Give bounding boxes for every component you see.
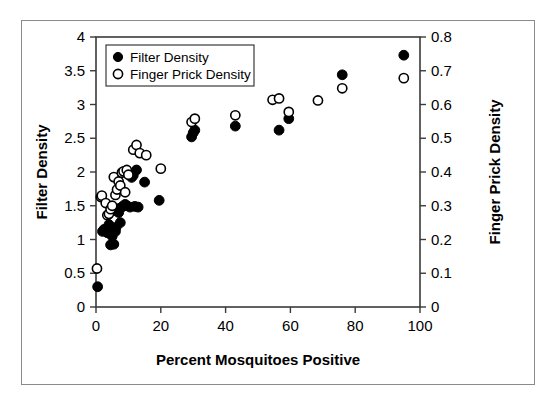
y2-axis-title: Finger Prick Density	[486, 99, 503, 245]
y-tick-label: 3	[77, 96, 85, 113]
x-tick-label: 0	[92, 317, 100, 334]
x-axis-title: Percent Mosquitoes Positive	[156, 351, 360, 368]
y2-tick-label: 0	[431, 298, 439, 315]
figure-container: 00.511.522.533.54 00.10.20.30.40.50.60.7…	[0, 0, 555, 404]
y-tick-label: 0	[77, 298, 85, 315]
x-tick-label: 80	[347, 317, 364, 334]
y2-axis-ticks	[420, 37, 426, 307]
data-point	[274, 94, 283, 103]
y2-tick-label: 0.1	[431, 264, 452, 281]
x-tick-label: 40	[217, 317, 234, 334]
data-point	[190, 114, 199, 123]
legend-marker-finger-prick-density	[113, 69, 122, 78]
y2-tick-label: 0.4	[431, 163, 452, 180]
data-point	[124, 170, 133, 179]
legend: Filter Density Finger Prick Density	[106, 45, 254, 86]
x-tick-label: 20	[152, 317, 169, 334]
data-point	[93, 282, 103, 292]
y2-tick-label: 0.5	[431, 129, 452, 146]
x-tick-label: 100	[407, 317, 432, 334]
data-point	[399, 50, 409, 60]
y-axis-title: Filter Density	[33, 124, 50, 220]
y-tick-label: 4	[77, 28, 85, 45]
legend-label-finger-prick-density: Finger Prick Density	[130, 67, 251, 82]
data-point	[338, 84, 347, 93]
y2-tick-label: 0.2	[431, 231, 452, 248]
legend-label-filter-density: Filter Density	[130, 50, 209, 65]
data-point	[115, 218, 125, 228]
data-point	[154, 195, 164, 205]
y-tick-label: 2.5	[64, 129, 85, 146]
y2-tick-label: 0.8	[431, 28, 452, 45]
x-tick-label: 60	[282, 317, 299, 334]
data-point	[140, 177, 150, 187]
data-point	[108, 201, 117, 210]
y-tick-label: 3.5	[64, 62, 85, 79]
data-point	[109, 239, 119, 249]
legend-marker-filter-density	[113, 52, 122, 61]
data-point	[92, 264, 101, 273]
y-tick-label: 0.5	[64, 264, 85, 281]
scatter-plot: 00.511.522.533.54 00.10.20.30.40.50.60.7…	[0, 0, 555, 404]
y-axis-tick-labels: 00.511.522.533.54	[64, 28, 85, 315]
data-point	[313, 96, 322, 105]
data-point	[133, 202, 143, 212]
x-axis-tick-labels: 020406080100	[92, 317, 433, 334]
y2-tick-label: 0.3	[431, 197, 452, 214]
y2-axis-tick-labels: 00.10.20.30.40.50.60.70.8	[431, 28, 452, 315]
y-tick-label: 1	[77, 231, 85, 248]
x-axis-ticks	[96, 307, 420, 313]
y2-tick-label: 0.7	[431, 62, 452, 79]
data-point	[230, 121, 240, 131]
data-point	[274, 125, 284, 135]
y2-tick-label: 0.6	[431, 96, 452, 113]
data-point	[121, 188, 130, 197]
data-point	[142, 151, 151, 160]
data-point	[284, 107, 293, 116]
data-point	[399, 74, 408, 83]
y-tick-label: 1.5	[64, 197, 85, 214]
data-point	[156, 164, 165, 173]
y-tick-label: 2	[77, 163, 85, 180]
data-point	[231, 111, 240, 120]
data-point	[337, 70, 347, 80]
